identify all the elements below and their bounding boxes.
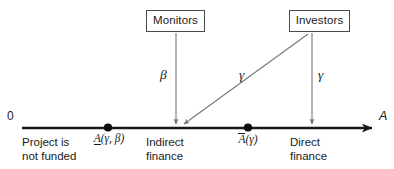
threshold-dot-a-upper (244, 123, 252, 131)
beta-arrow-label: β (160, 68, 167, 82)
a-upper-args: (γ) (245, 133, 257, 145)
monitors-node-label: Monitors (153, 15, 198, 27)
a-lower-base: A (94, 133, 101, 145)
investors-node-label: Investors (296, 15, 344, 27)
threshold-dot-a-lower (104, 123, 112, 131)
region-label-indirect-finance: Indirect finance (146, 135, 184, 164)
axis-variable-label: A (379, 110, 387, 123)
investors-node: Investors (289, 10, 350, 32)
gamma-vertical-arrow-label: γ (318, 68, 323, 82)
gamma-diagonal-arrow-label: γ (239, 68, 244, 82)
threshold-label-a-lower: A(γ, β) (82, 133, 136, 145)
region-label-not-funded: Project is not funded (22, 135, 76, 164)
axis-origin-label: 0 (7, 110, 14, 122)
threshold-label-a-upper: A(γ) (224, 133, 272, 146)
monitors-node: Monitors (146, 10, 205, 32)
region-label-direct-finance: Direct finance (290, 135, 327, 164)
a-lower-args: (γ, β) (101, 132, 125, 144)
gamma-diagonal-arrow (184, 34, 308, 124)
financing-regime-diagram: Monitors Investors 0 A β γ γ A(γ, β) A(γ… (0, 0, 394, 169)
